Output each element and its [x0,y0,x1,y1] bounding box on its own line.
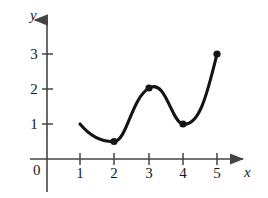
data-point-marker [145,84,152,91]
y-tick-label-1: 1 [26,117,42,132]
y-axis-label: y [30,8,37,23]
data-point-marker [110,138,117,145]
x-tick-label-1: 1 [72,166,88,181]
x-tick-label-2: 2 [106,166,122,181]
data-point-marker [179,120,186,127]
origin-label: 0 [33,163,41,178]
data-curve [80,54,217,142]
x-tick-label-3: 3 [141,166,157,181]
graph-figure: y x 0 1 2 3 1 2 3 4 5 [0,0,268,198]
y-tick-label-2: 2 [26,82,42,97]
y-tick-label-3: 3 [26,47,42,62]
x-tick-label-4: 4 [175,166,191,181]
data-point-marker [213,50,220,57]
x-axis-label: x [244,165,251,180]
x-tick-label-5: 5 [209,166,225,181]
